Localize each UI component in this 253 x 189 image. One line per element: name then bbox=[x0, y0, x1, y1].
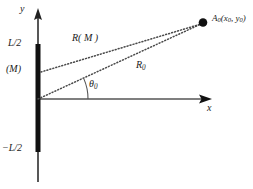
theta-0-arc bbox=[84, 79, 88, 99]
ray-R-0-subscript: 0 bbox=[142, 64, 146, 72]
point-A0-label: A0(x0, y0) bbox=[212, 14, 246, 24]
line-aperture-bar bbox=[36, 44, 41, 152]
diffraction-geometry-figure: y x L/2 (M) −L/2 R( M ) R0 θ0 A0(x0, y0) bbox=[0, 0, 253, 189]
point-A0-coord-close: ) bbox=[243, 13, 246, 23]
aperture-bottom-label: −L/2 bbox=[2, 143, 22, 153]
theta-subscript: 0 bbox=[94, 83, 98, 91]
ray-R-0-label: R0 bbox=[136, 60, 146, 72]
figure-canvas bbox=[0, 0, 253, 189]
aperture-top-label: L/2 bbox=[8, 38, 21, 48]
ray-R-M-label: R( M ) bbox=[72, 33, 98, 43]
point-A0-marker bbox=[199, 18, 208, 27]
point-A0-coord-open: (x bbox=[221, 13, 228, 23]
ray-R-0-line bbox=[38, 24, 201, 99]
x-axis-label: x bbox=[207, 103, 211, 113]
ray-R-M-line bbox=[41, 24, 201, 72]
theta-0-label: θ0 bbox=[89, 79, 98, 91]
ray-R-M-argument: ( M ) bbox=[78, 32, 98, 43]
aperture-point-M-label: (M) bbox=[6, 64, 21, 74]
y-axis-label: y bbox=[20, 4, 24, 14]
